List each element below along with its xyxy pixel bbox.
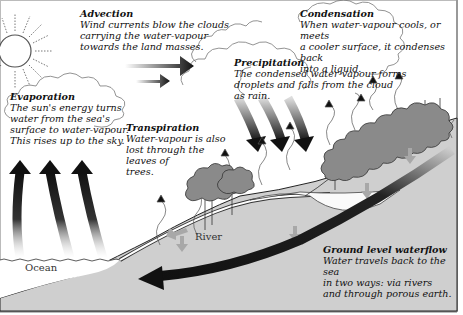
water-cycle-diagram: Advection Wind currents blow the clouds … [0, 0, 463, 315]
precipitation-arrows [238, 98, 314, 152]
evaporation-label: Evaporation The sun's energy turns water… [10, 91, 129, 146]
transpiration-label: Transpiration Water-vapour is also lost … [126, 122, 226, 177]
precipitation-label: Precipitation The condensed water-vapour… [234, 57, 407, 101]
ocean-label: Ocean [25, 262, 57, 273]
evaporation-arrows [9, 160, 103, 258]
advection-arrows [125, 56, 194, 88]
river-label: River [195, 231, 222, 242]
groundflow-label: Ground level waterflow Water travels bac… [323, 244, 463, 299]
advection-label: Advection Wind currents blow the clouds … [80, 8, 229, 52]
